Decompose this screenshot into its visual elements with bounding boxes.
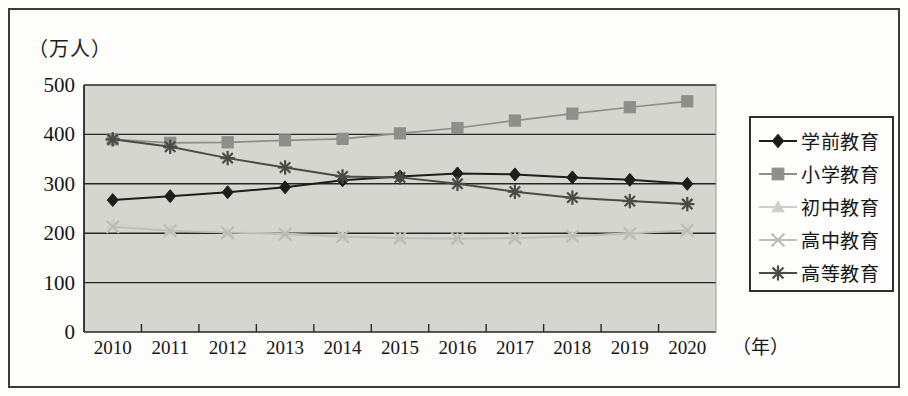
- svg-text:0: 0: [65, 320, 76, 344]
- legend-item-4: 高等教育: [751, 256, 892, 289]
- svg-text:400: 400: [44, 122, 76, 146]
- svg-text:200: 200: [44, 221, 76, 245]
- svg-text:2019: 2019: [611, 337, 649, 358]
- chart-page: （万人） 0100200300400500 201020112012201320…: [0, 0, 908, 396]
- legend-marker-square-icon: [757, 163, 799, 185]
- legend: 学前教育 小学教育 初中教育 高中教育 高等教育: [749, 116, 894, 292]
- legend-item-1: 小学教育: [751, 157, 892, 190]
- legend-marker-diamond-icon: [757, 130, 799, 152]
- x-axis-unit-label: （年）: [732, 337, 789, 358]
- svg-text:100: 100: [44, 271, 76, 295]
- svg-text:2017: 2017: [496, 337, 534, 358]
- plot-background: [84, 85, 716, 332]
- y-axis-ticks: 0100200300400500: [44, 73, 76, 344]
- svg-text:2014: 2014: [324, 337, 363, 358]
- svg-text:2016: 2016: [438, 337, 476, 358]
- svg-text:2013: 2013: [266, 337, 304, 358]
- legend-label-2: 初中教育: [801, 193, 879, 220]
- legend-item-2: 初中教育: [751, 190, 892, 223]
- legend-label-3: 高中教育: [801, 226, 879, 253]
- svg-text:2020: 2020: [668, 337, 706, 358]
- svg-text:2012: 2012: [209, 337, 247, 358]
- legend-item-3: 高中教育: [751, 223, 892, 256]
- legend-label-1: 小学教育: [801, 160, 879, 187]
- svg-text:2010: 2010: [94, 337, 132, 358]
- legend-marker-star-icon: [757, 262, 799, 284]
- legend-label-4: 高等教育: [801, 259, 879, 286]
- legend-item-0: 学前教育: [751, 124, 892, 157]
- svg-text:（年）: （年）: [732, 337, 789, 358]
- legend-marker-triangle-icon: [757, 196, 799, 218]
- svg-text:2011: 2011: [152, 337, 189, 358]
- svg-text:500: 500: [44, 73, 76, 97]
- legend-marker-cross-icon: [757, 229, 799, 251]
- legend-label-0: 学前教育: [801, 127, 879, 154]
- svg-text:2018: 2018: [553, 337, 591, 358]
- svg-text:2015: 2015: [381, 337, 419, 358]
- svg-text:300: 300: [44, 172, 76, 196]
